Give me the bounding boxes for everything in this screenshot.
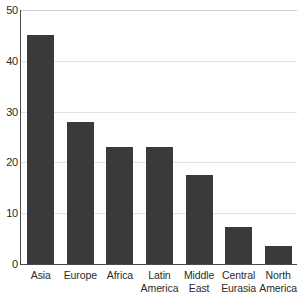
bar [186,175,213,264]
bar [106,147,133,264]
y-axis-line [20,10,21,265]
gridline [20,61,297,62]
x-axis-category-label-line: America [255,282,301,295]
bar [67,122,94,264]
y-axis-tick-labels: 01020304050 [0,0,18,300]
y-axis-tick-label: 50 [0,5,18,16]
bar-chart: 01020304050 AsiaEuropeAfricaLatinAmerica… [0,0,302,300]
plot-area [20,10,297,264]
x-axis-category-label: NorthAmerica [255,269,301,294]
x-axis-category-label-line: North [255,269,301,282]
bar [27,35,54,264]
x-axis-line [20,264,297,265]
x-axis-category-labels: AsiaEuropeAfricaLatinAmericaMiddleEastCe… [20,269,297,300]
gridline [20,10,297,11]
y-axis-tick-label: 40 [0,56,18,67]
y-axis-tick-label: 20 [0,157,18,168]
y-axis-tick-label: 0 [0,259,18,270]
bar [146,147,173,264]
y-axis-tick-label: 10 [0,208,18,219]
y-axis-tick-label: 30 [0,107,18,118]
gridline [20,112,297,113]
bar [225,227,252,264]
bar [265,246,292,264]
